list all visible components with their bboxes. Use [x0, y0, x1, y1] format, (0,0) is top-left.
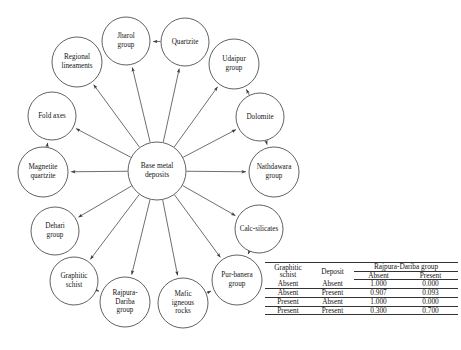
- edge-base-metal-deposits-to-udaipur-group: [174, 87, 217, 147]
- node-label-rajpura-dariba-group-line3: group: [117, 306, 134, 314]
- cell-absent: 1.000: [354, 297, 403, 306]
- edge-base-metal-deposits-to-pur-banera-group: [174, 195, 220, 257]
- node-label-rajpura-dariba-group-line2: Dariba: [115, 298, 135, 306]
- node-label-udaipur-group-line2: group: [226, 64, 243, 72]
- table-body: AbsentAbsent1.0000.000AbsentPresent0.907…: [265, 280, 458, 315]
- node-nathdawara-group[interactable]: Nathdawaragroup: [249, 147, 299, 197]
- node-label-graphitic-schist-line1: Graphitic: [60, 272, 87, 280]
- edge-base-metal-deposits-to-nathdawara-group: [187, 171, 246, 172]
- node-label-dolomite-line1: Dolomite: [246, 113, 273, 121]
- node-label-calc-silicates-line1: Calc-silicates: [240, 225, 279, 233]
- header-deposit: Deposit: [311, 263, 354, 280]
- cell-present: 0.000: [403, 297, 458, 306]
- node-dehari-group[interactable]: Deharigroup: [31, 207, 79, 255]
- cell-deposit: Absent: [311, 297, 354, 306]
- node-label-pur-banera-group-line2: group: [229, 280, 246, 288]
- edge-base-metal-deposits-to-graphitic-schist: [90, 195, 139, 260]
- node-fold-axes[interactable]: Fold axes: [28, 92, 76, 140]
- node-magnetite-quartzite[interactable]: Magnetitequartzite: [18, 147, 68, 197]
- node-label-jharol-group-line1: Jharol: [117, 32, 135, 40]
- node-label-nathdawara-group-line2: group: [266, 172, 283, 180]
- node-label-regional-lineaments-line2: lineaments: [61, 62, 92, 70]
- node-label-mafic-igneous-rocks-line1: Mafic: [174, 290, 191, 298]
- nodes-layer: JharolgroupQuartziteRegionallineamentsUd…: [18, 17, 299, 328]
- node-label-dehari-group-line2: group: [47, 231, 64, 239]
- figure-container: JharolgroupQuartziteRegionallineamentsUd…: [0, 0, 461, 350]
- node-base-metal-deposits[interactable]: Base metaldeposits: [128, 142, 186, 200]
- edge-base-metal-deposits-to-mafic-igneous-rocks: [163, 200, 178, 275]
- edge-calc-silicates-to-pur-banera-group: [248, 252, 249, 255]
- cell-graphitic-schist: Present: [265, 297, 311, 306]
- node-label-quartzite-line1: Quartzite: [172, 38, 199, 46]
- node-label-nathdawara-group-line1: Nathdawara: [257, 163, 293, 171]
- node-label-mafic-igneous-rocks-line2: igneous: [172, 299, 195, 307]
- edge-magnetite-quartzite-to-fold-axes: [47, 143, 48, 147]
- edge-base-metal-deposits-to-quartzite: [163, 69, 179, 143]
- edge-base-metal-deposits-to-regional-lineaments: [94, 85, 140, 147]
- conditional-probability-table: Graphitic schist Deposit Rajpura-Dariba …: [265, 262, 458, 315]
- cell-absent: 0.300: [354, 306, 403, 315]
- node-label-regional-lineaments-line1: Regional: [64, 53, 90, 61]
- node-label-udaipur-group-line1: Udaipur: [222, 55, 246, 63]
- header-graphitic-schist-line2: schist: [265, 271, 311, 279]
- node-label-mafic-igneous-rocks-line3: rocks: [175, 307, 191, 315]
- edge-dolomite-to-nathdawara-group: [266, 141, 267, 145]
- node-rajpura-dariba-group[interactable]: Rajpura-Daribagroup: [100, 277, 150, 327]
- node-label-graphitic-schist-line2: schist: [66, 281, 82, 289]
- edge-base-metal-deposits-to-rajpura-dariba-group: [132, 200, 150, 275]
- node-graphitic-schist[interactable]: Graphiticschist: [50, 257, 98, 305]
- node-label-magnetite-quartzite-line1: Magnetite: [28, 163, 57, 171]
- edge-base-metal-deposits-to-jharol-group: [132, 67, 150, 142]
- table-header-row-1: Graphitic schist Deposit Rajpura-Dariba …: [265, 263, 458, 272]
- node-label-jharol-group-line2: group: [118, 41, 135, 49]
- node-label-pur-banera-group-line1: Pur-banera: [221, 271, 253, 279]
- node-udaipur-group[interactable]: Udaipurgroup: [209, 39, 259, 89]
- table-row: PresentPresent0.3000.700: [265, 306, 458, 315]
- table-row: PresentAbsent1.0000.000: [265, 297, 458, 306]
- cell-present: 0.700: [403, 306, 458, 315]
- edge-graphitic-schist-to-rajpura-dariba-group: [97, 290, 99, 291]
- node-quartzite[interactable]: Quartzite: [161, 18, 209, 66]
- node-regional-lineaments[interactable]: Regionallineaments: [52, 37, 102, 87]
- node-dolomite[interactable]: Dolomite: [236, 93, 284, 141]
- table-head: Graphitic schist Deposit Rajpura-Dariba …: [265, 263, 458, 280]
- node-label-rajpura-dariba-group-line1: Rajpura-: [112, 289, 138, 297]
- edge-base-metal-deposits-to-fold-axes: [76, 129, 131, 158]
- header-rajpura-dariba-group: Rajpura-Dariba group: [354, 263, 458, 272]
- header-graphitic-schist: Graphitic schist: [265, 263, 311, 280]
- edge-base-metal-deposits-to-dolomite: [183, 130, 236, 158]
- node-label-magnetite-quartzite-line2: quartzite: [30, 172, 55, 180]
- cell-deposit: Present: [311, 306, 354, 315]
- node-mafic-igneous-rocks[interactable]: Maficigneousrocks: [158, 278, 208, 328]
- node-jharol-group[interactable]: Jharolgroup: [102, 17, 150, 65]
- node-label-fold-axes-line1: Fold axes: [38, 112, 66, 120]
- node-calc-silicates[interactable]: Calc-silicates: [235, 205, 283, 253]
- edge-mafic-igneous-rocks-to-pur-banera-group: [206, 291, 211, 293]
- cell-graphitic-schist: Present: [265, 306, 311, 315]
- edge-base-metal-deposits-to-calc-silicates: [183, 186, 236, 216]
- node-label-dehari-group-line1: Dehari: [45, 222, 65, 230]
- node-pur-banera-group[interactable]: Pur-baneragroup: [212, 255, 262, 305]
- node-label-base-metal-deposits-line2: deposits: [145, 170, 169, 179]
- edge-base-metal-deposits-to-dehari-group: [78, 186, 131, 217]
- edge-dolomite-to-udaipur-group: [246, 89, 249, 95]
